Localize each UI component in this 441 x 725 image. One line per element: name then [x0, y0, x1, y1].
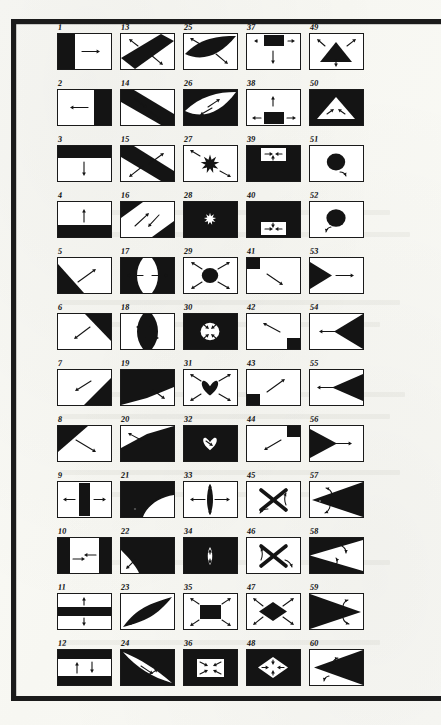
figure-box-56	[309, 425, 364, 462]
figure-number-label: 45	[247, 471, 256, 480]
figure-number-label: 25	[184, 23, 193, 32]
figure-number-label: 35	[184, 583, 193, 592]
figure-box-26	[183, 89, 238, 126]
figure-number-label: 12	[58, 639, 67, 648]
figure-box-7	[57, 369, 112, 406]
figure-number-label: 30	[184, 303, 193, 312]
figure-number-label: 59	[310, 583, 319, 592]
figure-drawing-cross-x	[247, 482, 300, 517]
figure-number-label: 1	[58, 23, 63, 32]
figure-drawing-curve-black-mass2	[121, 538, 174, 573]
figure-box-8	[57, 425, 112, 462]
figure-box-15	[120, 145, 175, 182]
figure-box-5	[57, 257, 112, 294]
figure-drawing-diag-band-nwse	[121, 146, 174, 181]
figure-number-label: 60	[310, 639, 319, 648]
figure-box-34	[183, 537, 238, 574]
figure-drawing-half-bottom	[58, 202, 111, 237]
figure-drawing-tab-top-white	[247, 146, 300, 181]
figure-box-29	[183, 257, 238, 294]
figure-drawing-wedge-left-black	[310, 258, 363, 293]
figure-box-20	[120, 425, 175, 462]
figure-number-label: 22	[121, 527, 130, 536]
figure-box-42	[246, 313, 301, 350]
figure-number-label: 33	[184, 471, 193, 480]
figure-drawing-wedge-right-big	[310, 482, 363, 517]
figure-drawing-bands-tb	[58, 650, 111, 685]
figure-box-37	[246, 33, 301, 70]
figure-drawing-tab-bottom-black	[247, 90, 300, 125]
figure-number-label: 54	[310, 303, 319, 312]
figure-drawing-wedge-white-left	[310, 538, 363, 573]
figure-box-43	[246, 369, 301, 406]
figure-drawing-rect-black	[184, 594, 237, 629]
figure-box-38	[246, 89, 301, 126]
figure-drawing-diamond-white	[247, 650, 300, 685]
figure-number-label: 8	[58, 415, 63, 424]
figure-number-label: 7	[58, 359, 63, 368]
figure-number-label: 51	[310, 135, 319, 144]
figure-number-label: 56	[310, 415, 319, 424]
figure-drawing-half-top	[58, 146, 111, 181]
figure-number-label: 4	[58, 191, 63, 200]
figure-box-19	[120, 369, 175, 406]
figure-grid: 1234567891011121314151617181920212223242…	[0, 0, 441, 725]
figure-drawing-heart-white	[184, 426, 237, 461]
figure-box-51	[309, 145, 364, 182]
figure-box-12	[57, 649, 112, 686]
figure-box-1	[57, 33, 112, 70]
figure-drawing-tri-bottom-left	[58, 258, 111, 293]
figure-number-label: 37	[247, 23, 256, 32]
figure-box-36	[183, 649, 238, 686]
figure-drawing-circle-white	[184, 314, 237, 349]
figure-box-14	[120, 89, 175, 126]
figure-drawing-half-left	[58, 34, 111, 69]
figure-drawing-tri-bottom-right	[58, 370, 111, 405]
figure-drawing-lens-vert-white	[184, 538, 237, 573]
figure-number-label: 42	[247, 303, 256, 312]
figure-drawing-band-vertical	[58, 482, 111, 517]
figure-box-21	[120, 481, 175, 518]
figure-box-55	[309, 369, 364, 406]
figure-box-53	[309, 257, 364, 294]
figure-box-3	[57, 145, 112, 182]
figure-drawing-corner-tl	[247, 258, 300, 293]
figure-drawing-disc-black-2	[310, 202, 363, 237]
figure-number-label: 36	[184, 639, 193, 648]
figure-box-18	[120, 313, 175, 350]
figure-number-label: 18	[121, 303, 130, 312]
figure-number-label: 11	[58, 583, 67, 592]
figure-number-label: 40	[247, 191, 256, 200]
figure-number-label: 23	[121, 583, 130, 592]
figure-number-label: 21	[121, 471, 130, 480]
figure-number-label: 57	[310, 471, 319, 480]
figure-drawing-diag-band-nesw	[121, 34, 174, 69]
figure-box-32	[183, 425, 238, 462]
figure-drawing-lens-white-diag	[121, 650, 174, 685]
figure-box-44	[246, 425, 301, 462]
figure-drawing-wedge-left-big	[310, 594, 363, 629]
figure-box-11	[57, 593, 112, 630]
figure-number-label: 52	[310, 191, 319, 200]
figure-number-label: 26	[184, 79, 193, 88]
figure-box-16	[120, 201, 175, 238]
figure-drawing-wedge-right-black	[310, 314, 363, 349]
figure-drawing-diag-band-nesw-w	[121, 90, 174, 125]
figure-number-label: 55	[310, 359, 319, 368]
figure-number-label: 31	[184, 359, 193, 368]
figure-drawing-wedge-right-big2	[310, 650, 363, 685]
figure-number-label: 27	[184, 135, 193, 144]
figure-drawing-disc-black	[310, 146, 363, 181]
figure-drawing-lens-black-wide	[184, 34, 237, 69]
figure-number-label: 53	[310, 247, 319, 256]
figure-box-39	[246, 145, 301, 182]
figure-drawing-tri-top-right	[58, 314, 111, 349]
figure-number-label: 10	[58, 527, 67, 536]
figure-box-33	[183, 481, 238, 518]
figure-box-35	[183, 593, 238, 630]
figure-number-label: 39	[247, 135, 256, 144]
figure-number-label: 20	[121, 415, 130, 424]
figure-number-label: 15	[121, 135, 130, 144]
figure-drawing-corner-bl	[247, 370, 300, 405]
figure-number-label: 41	[247, 247, 256, 256]
